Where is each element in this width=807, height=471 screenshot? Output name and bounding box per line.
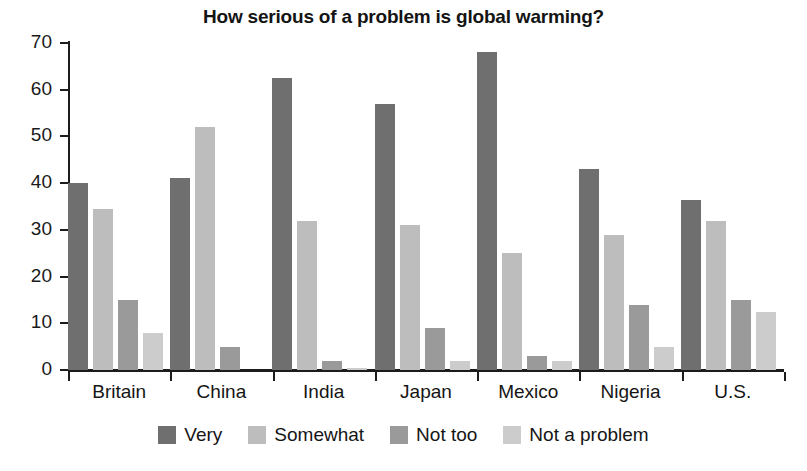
legend-item-not-too: Not too [390, 424, 477, 446]
y-axis-tick-label: 20 [0, 265, 52, 287]
bar-very-india [272, 78, 292, 370]
bar-not-too-u-s- [731, 300, 751, 370]
bar-not-too-britain [118, 300, 138, 370]
legend-swatch-icon [158, 426, 176, 444]
bar-somewhat-nigeria [604, 235, 624, 370]
y-axis-tick-label: 70 [0, 31, 52, 53]
bar-not-a-problem-u-s- [756, 312, 776, 370]
bar-somewhat-japan [400, 225, 420, 370]
x-axis-tick [682, 372, 684, 381]
bar-not-too-india [322, 361, 342, 370]
legend-label: Very [184, 424, 222, 446]
y-axis-tick-label: 40 [0, 171, 52, 193]
bar-somewhat-china [195, 127, 215, 370]
x-axis-category-label: U.S. [682, 381, 784, 403]
bar-very-nigeria [579, 169, 599, 370]
bar-not-too-japan [425, 328, 445, 370]
bar-very-u-s- [681, 200, 701, 371]
bar-somewhat-u-s- [706, 221, 726, 370]
legend-swatch-icon [503, 426, 521, 444]
x-axis-tick [477, 372, 479, 381]
x-axis-tick [68, 372, 70, 381]
bar-not-a-problem-nigeria [654, 347, 674, 370]
y-axis-tick-label: 10 [0, 311, 52, 333]
bar-somewhat-mexico [502, 253, 522, 370]
bar-not-too-mexico [527, 356, 547, 370]
bar-very-japan [375, 104, 395, 370]
bar-somewhat-india [297, 221, 317, 370]
chart-legend: VerySomewhatNot tooNot a problem [0, 424, 807, 446]
bar-somewhat-britain [93, 209, 113, 370]
y-axis-tick-label: 30 [0, 218, 52, 240]
y-axis-tick-label: 60 [0, 78, 52, 100]
x-axis-category-label: Nigeria [579, 381, 681, 403]
bar-chart: How serious of a problem is global warmi… [0, 0, 807, 471]
x-axis-category-label: Mexico [477, 381, 579, 403]
x-axis-tick [579, 372, 581, 381]
chart-title: How serious of a problem is global warmi… [0, 6, 807, 28]
x-axis-category-label: India [273, 381, 375, 403]
bar-very-china [170, 178, 190, 370]
bar-not-a-problem-britain [143, 333, 163, 370]
x-axis-tick [273, 372, 275, 381]
x-axis-tick [170, 372, 172, 381]
bar-not-a-problem-india [347, 368, 367, 370]
bar-not-too-nigeria [629, 305, 649, 370]
plot-area [68, 43, 784, 370]
y-axis-tick-label: 50 [0, 124, 52, 146]
legend-label: Not a problem [529, 424, 648, 446]
bar-not-a-problem-mexico [552, 361, 572, 370]
x-axis-category-label: Japan [375, 381, 477, 403]
x-axis-tick [375, 372, 377, 381]
bar-not-a-problem-japan [450, 361, 470, 370]
x-axis-category-label: China [170, 381, 272, 403]
legend-swatch-icon [248, 426, 266, 444]
legend-swatch-icon [390, 426, 408, 444]
y-axis-tick-label: 0 [0, 358, 52, 380]
legend-item-very: Very [158, 424, 222, 446]
bar-very-britain [68, 183, 88, 370]
legend-label: Not too [416, 424, 477, 446]
legend-item-somewhat: Somewhat [248, 424, 364, 446]
legend-label: Somewhat [274, 424, 364, 446]
x-axis-tick [784, 372, 786, 381]
legend-item-not-a-problem: Not a problem [503, 424, 648, 446]
bar-not-too-china [220, 347, 240, 370]
bar-very-mexico [477, 52, 497, 370]
x-axis-category-label: Britain [68, 381, 170, 403]
